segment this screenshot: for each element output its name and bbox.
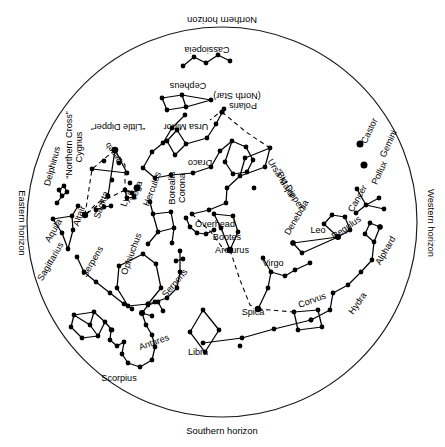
horizon-label-north: Northern horizon <box>187 15 257 26</box>
star-dot <box>251 158 256 163</box>
star-dot <box>272 327 277 332</box>
star-dot <box>240 336 245 341</box>
bright-star-polaris <box>219 109 224 114</box>
star-dot <box>144 323 149 328</box>
star-dot <box>225 186 230 191</box>
star-dot <box>363 232 368 237</box>
label-cepheus: Cepheus <box>169 81 206 91</box>
star-dot <box>172 226 177 231</box>
star-dot <box>115 344 120 349</box>
star-dot <box>346 283 351 288</box>
star-dot <box>156 300 161 305</box>
star-dot <box>212 212 217 217</box>
star-dot <box>108 338 113 343</box>
label-draco: Draco <box>188 158 212 168</box>
star-dot <box>309 318 314 323</box>
star-dot <box>75 255 80 260</box>
label-cassiopeia: Cassiopeia <box>184 45 230 55</box>
label-ursa-minor: Ursa Minor <box>164 122 208 132</box>
star-dot <box>170 241 175 246</box>
label-overhead: Overhead <box>195 219 235 229</box>
star-dot <box>218 149 223 154</box>
star-dot <box>88 323 93 328</box>
star-dot <box>128 181 133 186</box>
star-dot <box>204 232 209 237</box>
star-dot <box>238 174 243 179</box>
star-dot <box>231 214 236 219</box>
star-dot <box>331 291 336 296</box>
star-dot <box>173 153 178 158</box>
star-dot <box>160 96 165 101</box>
label-scorpius: Scorpius <box>101 373 137 383</box>
star-dot <box>55 201 60 206</box>
star-dot <box>201 341 206 346</box>
star-dot <box>209 98 214 103</box>
star-dot <box>178 249 183 254</box>
label-spica: Spica <box>242 307 266 317</box>
star-dot <box>125 171 130 176</box>
star-dot <box>69 325 74 330</box>
star-dot <box>188 330 193 335</box>
star-dot <box>252 186 257 191</box>
star-dot <box>150 358 155 363</box>
label-polaris: Polaris <box>229 101 257 111</box>
star-dot <box>228 59 233 64</box>
star-dot <box>108 291 113 296</box>
star-dot <box>191 171 196 176</box>
star-dot <box>150 314 155 319</box>
star-dot <box>320 325 325 330</box>
star-dot <box>57 188 62 193</box>
star-dot <box>156 230 161 235</box>
bright-star-antares <box>139 310 145 316</box>
star-dot <box>150 150 155 155</box>
star-dot <box>60 231 65 236</box>
sky-map-svg: CassiopeiaCepheusPolaris(North Star)Ursa… <box>0 0 445 447</box>
star-dot <box>165 108 170 113</box>
star-dot <box>328 308 333 313</box>
star-dot <box>109 328 114 333</box>
star-dot <box>283 274 288 279</box>
star-dot <box>224 201 229 206</box>
star-dot <box>146 242 151 247</box>
star-dot <box>377 196 382 201</box>
star-dot <box>130 307 135 312</box>
star-dot <box>292 310 297 315</box>
label-leo: Leo <box>310 225 325 235</box>
star-dot <box>141 252 146 257</box>
star-dot <box>103 320 108 325</box>
star-dot <box>141 166 146 171</box>
star-dot <box>238 344 243 349</box>
star-dot <box>115 286 120 291</box>
star-dot <box>296 328 301 333</box>
star-dot <box>308 261 313 266</box>
star-dot <box>138 365 143 370</box>
star-dot <box>184 105 189 110</box>
star-dot <box>90 167 95 172</box>
star-dot <box>368 221 373 226</box>
label-libra: Libra <box>188 347 209 357</box>
star-dot <box>161 141 166 146</box>
star-dot <box>110 178 115 183</box>
star-dot <box>214 122 219 127</box>
star-dot <box>205 136 210 141</box>
label-corona-borealis-1: Corona <box>177 172 187 203</box>
star-dot <box>223 160 228 165</box>
star-dot <box>343 215 348 220</box>
label-virgo: Virgo <box>262 258 283 268</box>
star-dot <box>72 313 77 318</box>
star-dot <box>181 257 186 262</box>
star-dot <box>201 308 206 313</box>
horizon-label-east: Eastern horizon <box>17 190 28 256</box>
star-dot <box>174 259 179 264</box>
star-dot <box>96 334 101 339</box>
star-dot <box>92 310 97 315</box>
star-dot <box>268 146 273 151</box>
star-dot <box>154 262 159 267</box>
label-little-dipper: “Little Dipper” <box>91 122 146 132</box>
label-cygnus: Cygnus <box>74 131 84 162</box>
star-dot <box>66 247 71 252</box>
label-arcturus: Arcturus <box>215 245 249 255</box>
star-chart: CassiopeiaCepheusPolaris(North Star)Ursa… <box>0 0 445 447</box>
star-dot <box>372 240 377 245</box>
star-dot <box>269 270 274 275</box>
